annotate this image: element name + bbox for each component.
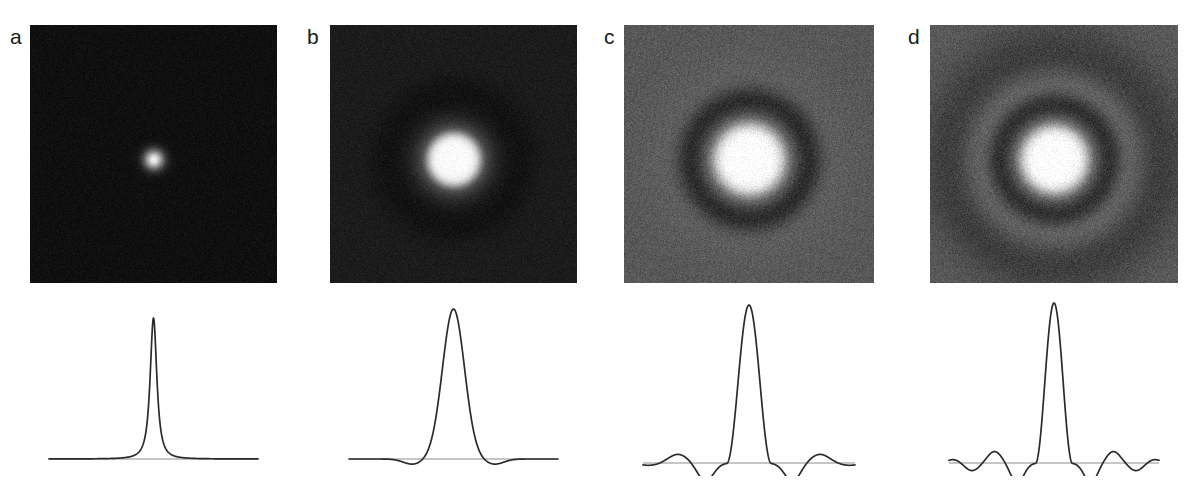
profile-plot	[30, 300, 277, 475]
psf-canvas-b	[330, 25, 577, 283]
psf-canvas-c	[624, 25, 874, 283]
profile-plot	[330, 300, 577, 475]
profile-curve	[643, 305, 855, 476]
line-profile-b	[330, 300, 577, 475]
profile-plot	[624, 296, 874, 476]
psf-image-a	[30, 25, 277, 283]
line-profile-d	[930, 296, 1178, 476]
line-profile-a	[30, 300, 277, 475]
psf-canvas-d	[930, 25, 1178, 283]
panel-label-a: a	[10, 26, 22, 47]
profile-curve	[949, 303, 1159, 476]
profile-plot	[930, 296, 1178, 476]
psf-image-b	[330, 25, 577, 283]
profile-curve	[49, 318, 258, 459]
panel-label-c: c	[604, 26, 615, 47]
psf-image-d	[930, 25, 1178, 283]
profile-curve	[349, 309, 558, 464]
panel-label-b: b	[307, 26, 319, 47]
psf-canvas-a	[30, 25, 277, 283]
psf-figure: a b c d	[0, 0, 1197, 503]
line-profile-c	[624, 296, 874, 476]
panel-label-d: d	[908, 26, 920, 47]
psf-image-c	[624, 25, 874, 283]
